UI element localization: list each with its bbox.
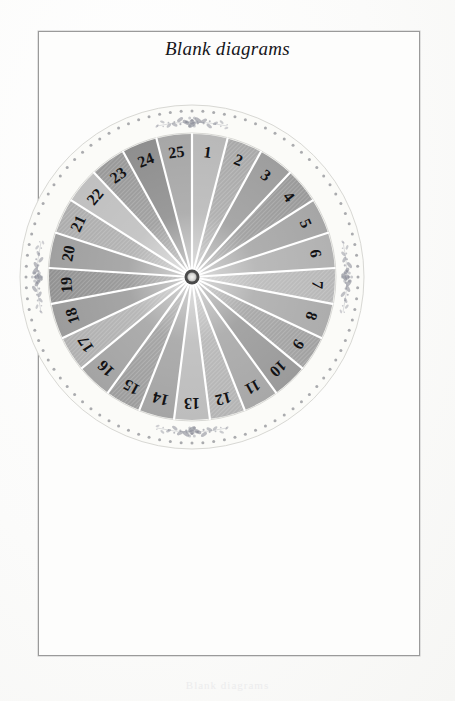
- scanned-page: Blank diagrams: [0, 0, 455, 701]
- sector-label-20: 20: [58, 244, 78, 263]
- diagram-container: 1234567891011121314151617181920212223242…: [17, 102, 367, 452]
- sector-label-19: 19: [57, 276, 75, 293]
- page-title: Blank diagrams: [0, 38, 455, 60]
- blank-rose-wheel-diagram: 1234567891011121314151617181920212223242…: [17, 102, 367, 452]
- hub-center: [187, 272, 196, 281]
- sector-label-13: 13: [184, 395, 200, 412]
- bottom-caption: Blank diagrams: [0, 679, 455, 691]
- sector-label-25: 25: [167, 143, 185, 162]
- sector-label-7: 7: [309, 280, 326, 289]
